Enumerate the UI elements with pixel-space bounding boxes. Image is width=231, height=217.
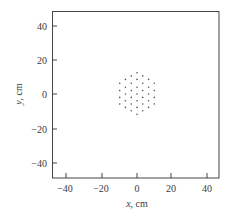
data-point [131,97,133,99]
data-point [136,87,138,89]
data-point [119,83,121,85]
y-axis-label: y, cm [13,83,24,106]
data-point [136,93,138,95]
x-tick-label: 40 [202,183,212,194]
data-point [125,107,127,109]
x-axis-label: x, cm [125,198,148,209]
x-tick-label: −40 [57,183,73,194]
data-point [125,100,127,102]
data-point [142,110,144,112]
data-point [154,83,156,85]
data-point [131,90,133,92]
data-point [148,87,150,89]
plot-frame [53,12,220,179]
data-points [119,72,155,115]
data-point [142,90,144,92]
data-point [148,107,150,109]
x-axis: −40 −20 0 20 40 [57,173,212,194]
y-tick-label: 20 [37,55,47,66]
data-point [136,79,138,81]
data-point [142,75,144,77]
x-tick-label: −20 [93,183,109,194]
data-point [131,103,133,105]
data-point [125,87,127,89]
y-tick-label: 0 [42,89,47,100]
data-point [154,90,156,92]
data-point [119,103,121,105]
y-axis: 40 20 0 −20 −40 [31,21,57,169]
data-point [154,97,156,99]
y-tick-label: −20 [31,124,47,135]
y-tick-label: 40 [37,21,47,32]
data-point [125,93,127,95]
data-point [119,90,121,92]
data-point [148,93,150,95]
data-point [125,79,127,81]
data-point [142,83,144,85]
data-point [154,103,156,105]
data-point [136,114,138,116]
data-point [131,83,133,85]
data-point [136,72,138,74]
data-point [131,110,133,112]
data-point [142,97,144,99]
data-point [136,107,138,109]
data-point [136,100,138,102]
x-tick-label: 0 [135,183,140,194]
data-point [148,100,150,102]
data-point [142,103,144,105]
data-point [119,97,121,99]
data-point [131,75,133,77]
data-point [148,79,150,81]
x-tick-label: 20 [166,183,176,194]
scatter-chart: 40 20 0 −20 −40 −40 −20 0 20 40 x, cm y,… [0,0,231,217]
y-tick-label: −40 [31,158,47,169]
